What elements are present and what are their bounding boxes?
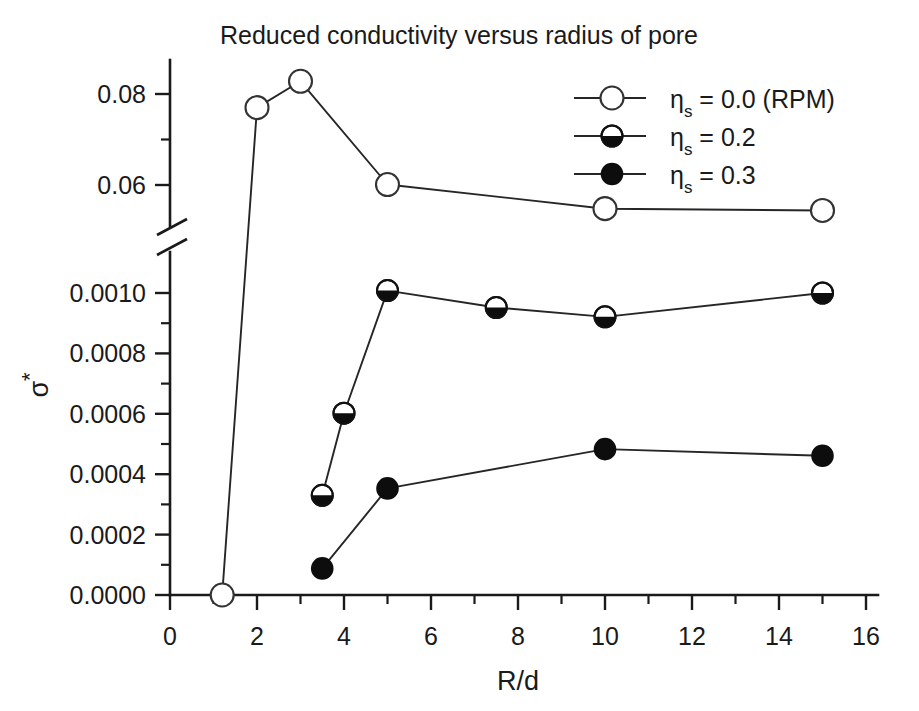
legend-item-2[interactable]: ηs = 0.3 [574,161,756,197]
series-1 [312,280,833,506]
eta-value: = 0.0 (RPM) [692,85,834,113]
legend-label: ηs = 0.2 [670,123,756,159]
marker-open-circle [289,70,312,93]
chart-figure: Reduced conductivity versus radius of po… [0,0,919,711]
marker-open-circle [246,96,269,119]
axis-break-slash-lower [157,239,187,255]
series-line [322,449,822,568]
eta-symbol: η [670,161,684,189]
eta-symbol: η [670,123,684,151]
sigma-glyph: σ [24,381,54,398]
marker-open-circle [811,199,834,222]
marker-open-circle [594,197,617,220]
y-axis-title-group: σ* [17,372,54,398]
eta-subscript: s [684,140,693,159]
axis-break-slash-upper [157,219,187,235]
y-tick-label: 0.0008 [70,339,146,367]
marker-filled-circle [602,164,623,185]
x-tick-label: 12 [678,622,706,650]
y-tick-label: 0.0000 [70,581,146,609]
eta-subscript: s [684,102,693,121]
y-tick-label: 0.08 [97,80,146,108]
legend-item-0[interactable]: ηs = 0.0 (RPM) [574,85,835,121]
y-tick-label: 0.0006 [70,400,146,428]
marker-open-circle [376,173,399,196]
chart-title-group: Reduced conductivity versus radius of po… [220,21,698,49]
y-tick-label: 0.0010 [70,279,146,307]
x-tick-label: 10 [591,622,619,650]
asterisk-glyph: * [17,372,42,381]
legend-label: ηs = 0.3 [670,161,756,197]
marker-filled-circle [595,439,616,460]
x-tick-label: 8 [511,622,525,650]
y-axis-title: σ* [17,372,54,398]
axis-group [155,60,878,610]
legend-item-1[interactable]: ηs = 0.2 [574,123,756,159]
x-tick-label: 0 [163,622,177,650]
marker-filled-circle [312,558,333,579]
tick-label-group: 0.00000.00020.00040.00060.00080.00100.06… [70,80,880,650]
legend: ηs = 0.0 (RPM)ηs = 0.2ηs = 0.3 [574,85,835,197]
marker-open-circle [211,584,234,607]
y-tick-label: 0.06 [97,171,146,199]
y-tick-label: 0.0002 [70,521,146,549]
marker-filled-circle [377,478,398,499]
chart-title: Reduced conductivity versus radius of po… [220,21,698,49]
marker-filled-circle [812,445,833,466]
eta-value: = 0.2 [692,123,755,151]
series-line [222,81,822,595]
series-line [322,291,822,496]
x-tick-label: 6 [424,622,438,650]
chart-canvas: Reduced conductivity versus radius of po… [0,0,919,711]
eta-subscript: s [684,178,693,197]
x-tick-label: 2 [250,622,264,650]
x-axis-title: R/d [497,666,539,696]
x-tick-label: 16 [852,622,880,650]
x-tick-label: 4 [337,622,351,650]
series-2 [312,439,833,579]
y-tick-label: 0.0004 [70,460,147,488]
eta-value: = 0.3 [692,161,755,189]
x-tick-label: 14 [765,622,793,650]
eta-symbol: η [670,85,684,113]
marker-open-circle [601,87,624,110]
legend-label: ηs = 0.0 (RPM) [670,85,835,121]
